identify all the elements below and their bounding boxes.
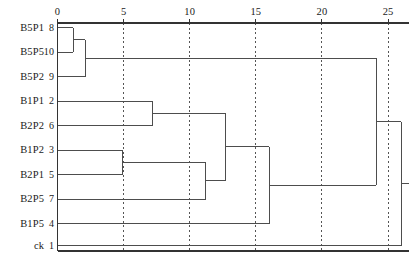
grid-lines bbox=[124, 23, 388, 251]
leaf-label-b1p5: B1P5 bbox=[0, 218, 44, 229]
leaf-id-5: 5 bbox=[40, 170, 54, 180]
leaf-label-b5p5: B5P5 bbox=[0, 47, 44, 58]
leaf-id-3: 3 bbox=[40, 145, 54, 155]
leaf-label-b2p5: B2P5 bbox=[0, 194, 44, 205]
axis-tick-label-10: 10 bbox=[184, 7, 195, 18]
axis-tick-label-25: 25 bbox=[383, 7, 394, 18]
leaf-id-1: 1 bbox=[40, 241, 54, 251]
leaf-id-10: 10 bbox=[40, 47, 54, 57]
axis-line bbox=[58, 19, 410, 251]
axis-tick-label-20: 20 bbox=[317, 7, 328, 18]
axis-tick-label-5: 5 bbox=[121, 7, 126, 18]
leaf-id-9: 9 bbox=[40, 72, 54, 82]
leaf-label-b1p1: B1P1 bbox=[0, 96, 44, 107]
dendrogram-plot bbox=[0, 0, 419, 262]
dendrogram-tree bbox=[58, 28, 410, 246]
leaf-id-4: 4 bbox=[40, 219, 54, 229]
leaf-label-b1p2: B1P2 bbox=[0, 145, 44, 156]
leaf-id-2: 2 bbox=[40, 96, 54, 106]
dendrogram-figure: B5P1B5P5B5P2B1P1B2P2B1P2B2P1B2P5B1P5ck 8… bbox=[0, 0, 419, 262]
leaf-label-b2p1: B2P1 bbox=[0, 169, 44, 180]
axis-tick-label-15: 15 bbox=[250, 7, 261, 18]
leaf-id-8: 8 bbox=[40, 23, 54, 33]
axis-tick-label-0: 0 bbox=[55, 7, 60, 18]
leaf-id-7: 7 bbox=[40, 194, 54, 204]
leaf-label-b2p2: B2P2 bbox=[0, 120, 44, 131]
leaf-id-6: 6 bbox=[40, 121, 54, 131]
leaf-label-b5p2: B5P2 bbox=[0, 71, 44, 82]
leaf-label-ck: ck bbox=[0, 240, 44, 251]
leaf-label-b5p1: B5P1 bbox=[0, 22, 44, 33]
